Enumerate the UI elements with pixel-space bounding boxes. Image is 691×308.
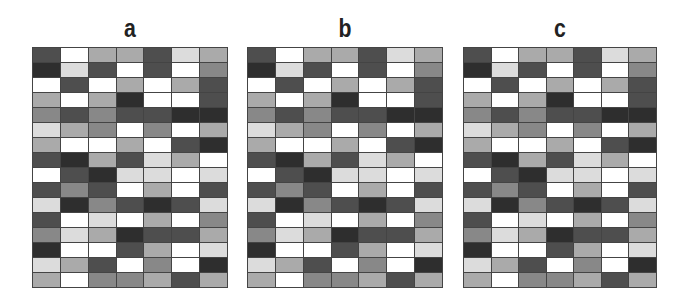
grid-cell [117,213,144,227]
grid-cell [492,78,519,92]
grid-cell [61,63,88,77]
grid-cell [276,153,303,167]
grid-cell [89,228,116,242]
grid-cell [304,63,331,77]
grid-cell [172,153,199,167]
grid-cell [144,123,171,137]
grid-cell [387,123,414,137]
grid-cell [387,183,414,197]
grid-cell [464,183,491,197]
grid-cell [332,93,359,107]
grid-cell [629,78,656,92]
grid-cell [332,183,359,197]
grid-cell [359,48,386,62]
panel-title: b [262,14,429,43]
grid-cell [415,168,442,182]
grid-cell [304,138,331,152]
grid-cell [519,63,546,77]
grid-cell [415,198,442,212]
grid-cell [304,198,331,212]
grid-cell [492,273,519,287]
grid-cell [276,198,303,212]
grid-cell [248,48,275,62]
grid-cell [519,213,546,227]
grid-cell [574,183,601,197]
grid-cell [602,243,629,257]
grid-cell [574,93,601,107]
panel-a: a [32,0,228,308]
grid-cell [574,243,601,257]
grid-cell [332,78,359,92]
grid-cell [332,168,359,182]
grid-cell [304,273,331,287]
grid-cell [200,48,227,62]
grid-cell [359,183,386,197]
grid-cell [629,123,656,137]
panel-b: b [247,0,443,308]
grid-cell [387,243,414,257]
grid-cell [304,108,331,122]
grid-cell [276,273,303,287]
grid-cell [144,78,171,92]
grid-cell [574,258,601,272]
grid-cell [415,153,442,167]
grid-cell [492,138,519,152]
grid-cell [33,63,60,77]
grid-cell [629,198,656,212]
grid-cell [415,273,442,287]
grid-cell [464,138,491,152]
grid-cell [387,258,414,272]
grid-cell [359,93,386,107]
grid-cell [117,153,144,167]
grid-cell [332,228,359,242]
grid-cell [415,228,442,242]
grid-cell [144,153,171,167]
grid-cell [61,108,88,122]
grid-cell [359,108,386,122]
grid-cell [359,228,386,242]
grid-cell [117,168,144,182]
grid-cell [276,93,303,107]
grid-cell [359,198,386,212]
grid-cell [276,213,303,227]
grid-cell [304,213,331,227]
grid-cell [519,228,546,242]
grid-cell [117,243,144,257]
grid-cell [387,48,414,62]
grid-cell [248,228,275,242]
grid-cell [117,198,144,212]
grid-cell [61,138,88,152]
grid-cell [276,138,303,152]
grid-cell [602,138,629,152]
grid-cell [117,63,144,77]
grid-cell [359,153,386,167]
grid-cell [464,198,491,212]
grid-cell [89,123,116,137]
grid-cell [629,213,656,227]
grid-cell [117,273,144,287]
grid-cell [629,228,656,242]
grid-cell [464,48,491,62]
grid-cell [117,123,144,137]
grid-cell [602,48,629,62]
grid-cell [117,93,144,107]
grid-cell [359,63,386,77]
grid-cell [61,273,88,287]
grid-cell [359,168,386,182]
shade-grid [463,47,657,288]
grid-cell [415,93,442,107]
grid-cell [574,168,601,182]
grid-cell [464,108,491,122]
grid-cell [89,258,116,272]
grid-cell [464,213,491,227]
grid-cell [547,138,574,152]
grid-cell [629,48,656,62]
grid-cell [304,168,331,182]
grid-cell [200,153,227,167]
grid-cell [332,258,359,272]
grid-cell [172,78,199,92]
grid-cell [200,123,227,137]
grid-cell [248,93,275,107]
grid-cell [415,108,442,122]
grid-cell [332,138,359,152]
